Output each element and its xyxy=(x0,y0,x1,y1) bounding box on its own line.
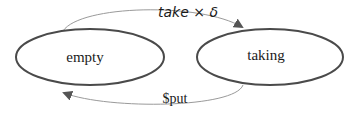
transition-label-put: $put xyxy=(163,91,188,106)
state-taking: taking xyxy=(197,29,343,85)
transition-arrow-put xyxy=(64,85,243,104)
transition-taking-to-empty: $put xyxy=(64,85,243,106)
transition-label-take: take × δ xyxy=(158,4,218,20)
state-diagram: take × δ $put empty taking xyxy=(0,0,357,113)
state-empty-label: empty xyxy=(66,49,104,65)
transition-empty-to-taking: take × δ xyxy=(63,4,242,31)
state-empty: empty xyxy=(16,29,164,85)
state-taking-label: taking xyxy=(247,47,285,63)
